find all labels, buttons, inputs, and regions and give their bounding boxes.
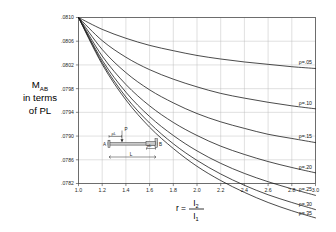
inset-label-b: B	[159, 142, 162, 147]
x-axis-title-lead: r =	[176, 203, 186, 213]
x-tick-label: 2.6	[264, 187, 271, 193]
y-tick-label: .0802	[61, 62, 74, 68]
inset-left-support-block	[108, 140, 110, 147]
inset-span-label: L	[130, 152, 133, 157]
x-tick-label: 1.4	[122, 187, 129, 193]
y-tick-label: .0794	[61, 109, 74, 115]
series-label-p35: ρ=.35	[299, 210, 312, 216]
y-tick-label: .0806	[61, 38, 74, 44]
chart-svg: .0810.0806.0802.0798.0794.0790.0786.0782…	[0, 0, 336, 232]
y-axis-title-line-2: in terms	[23, 92, 57, 103]
x-tick-label: 1.6	[146, 187, 153, 193]
x-tick-label: 1.8	[170, 187, 177, 193]
y-tick-label: .0782	[61, 180, 74, 186]
chart-figure: .0810.0806.0802.0798.0794.0790.0786.0782…	[0, 0, 336, 232]
series-label-p20: ρ=.20	[299, 164, 312, 170]
series-label-p30: ρ=.30	[299, 201, 312, 207]
x-tick-label: 2.2	[217, 187, 224, 193]
x-tick-label: 1.2	[99, 187, 106, 193]
x-tick-label: 1.0	[75, 187, 82, 193]
y-tick-label: .0798	[61, 86, 74, 92]
series-label-p15: ρ=.15	[299, 133, 312, 139]
x-tick-label: 2.0	[193, 187, 200, 193]
y-axis-title-line-3: of PL	[29, 105, 52, 116]
y-tick-label: .0790	[61, 133, 74, 139]
series-label-p25: ρ=.25	[299, 186, 312, 192]
series-label-p05: ρ=.05	[299, 59, 312, 65]
y-tick-label: .0786	[61, 157, 74, 163]
x-tick-label: 3.0	[312, 187, 319, 193]
y-tick-label: .0810	[61, 14, 74, 20]
inset-load-label: P	[125, 127, 128, 132]
chart-background	[0, 0, 336, 232]
series-label-p10: ρ=.10	[299, 100, 312, 106]
